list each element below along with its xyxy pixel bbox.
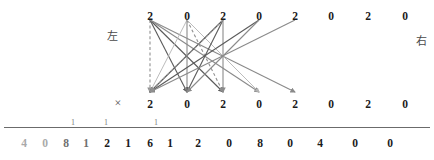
multiplier-digit-1: 0: [180, 98, 194, 111]
wire-0-to-3: [150, 20, 259, 92]
multiplicand-digit-1: 0: [180, 10, 194, 23]
product-digit-6: 6: [143, 137, 157, 150]
multiplier-digit-5: 0: [324, 98, 338, 111]
product-digit-13: 0: [348, 137, 362, 150]
product-digit-14: 0: [383, 137, 397, 150]
multiplicand-digit-0: 2: [143, 10, 157, 23]
wire-0-to-2: [150, 20, 223, 92]
multiplier-digit-2: 2: [216, 98, 230, 111]
wire-4-to-0: [150, 20, 295, 92]
multiplicand-digit-2: 2: [216, 10, 230, 23]
multiplication-diagram: 左 右 × 20202020 20202020 111 408121612080…: [0, 0, 434, 160]
wire-1-to-2: [187, 20, 223, 92]
product-digit-1: 0: [38, 137, 52, 150]
multiplicand-digit-7: 0: [398, 10, 412, 23]
multiplicand-digit-4: 2: [288, 10, 302, 23]
carry-digit-0: 1: [68, 118, 78, 127]
product-digit-10: 8: [253, 137, 267, 150]
carry-digit-1: 1: [101, 118, 111, 127]
product-digit-2: 8: [59, 137, 73, 150]
sum-rule: [4, 127, 430, 128]
wire-2-to-0: [150, 20, 223, 92]
product-digit-5: 1: [121, 137, 135, 150]
wire-network: [0, 0, 434, 160]
multiplicand-digit-5: 0: [324, 10, 338, 23]
product-digit-0: 4: [17, 137, 31, 150]
label-right: 右: [413, 36, 429, 48]
multiplicand-digit-3: 0: [252, 10, 266, 23]
multiply-symbol: ×: [111, 97, 125, 109]
product-digit-11: 0: [283, 137, 297, 150]
wire-0-to-1: [150, 20, 187, 92]
multiplier-digit-0: 2: [143, 98, 157, 111]
product-digit-4: 2: [100, 137, 114, 150]
wire-3-to-0: [150, 20, 259, 92]
product-digit-9: 0: [222, 137, 236, 150]
product-digit-7: 1: [163, 137, 177, 150]
product-digit-3: 1: [79, 137, 93, 150]
multiplier-digit-6: 2: [361, 98, 375, 111]
wire-3-to-1: [187, 20, 259, 92]
wire-2-to-0: [150, 20, 223, 92]
label-left: 左: [104, 31, 120, 43]
wire-1-to-0: [150, 20, 187, 92]
multiplier-digit-3: 0: [252, 98, 266, 111]
wire-0-to-4: [150, 20, 295, 92]
multiplier-digit-7: 0: [398, 98, 412, 111]
product-digit-12: 4: [313, 137, 327, 150]
wire-1-to-3: [187, 20, 259, 92]
product-digit-8: 2: [191, 137, 205, 150]
wire-2-to-1: [187, 20, 223, 92]
multiplicand-digit-6: 2: [361, 10, 375, 23]
carry-digit-2: 1: [151, 118, 161, 127]
multiplier-digit-4: 2: [288, 98, 302, 111]
